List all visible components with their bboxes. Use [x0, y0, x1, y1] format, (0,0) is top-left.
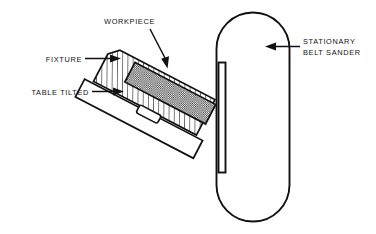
sander-platen-bar — [219, 63, 226, 173]
tilted-assembly — [75, 42, 222, 158]
label-table-tilted: TABLE TILTED — [32, 88, 90, 97]
label-workpiece: WORKPIECE — [104, 17, 155, 26]
stationary-belt-sander-body — [217, 13, 290, 222]
label-belt-sander-line1: STATIONARY — [303, 37, 356, 46]
label-fixture: FIXTURE — [46, 55, 82, 64]
label-belt-sander-line2: BELT SANDER — [303, 48, 361, 57]
diagram-canvas: WORKPIECE FIXTURE TABLE TILTED STATIONAR… — [0, 0, 376, 234]
belt-sander-diagram: WORKPIECE FIXTURE TABLE TILTED STATIONAR… — [0, 0, 376, 234]
workpiece-leader — [150, 29, 169, 69]
